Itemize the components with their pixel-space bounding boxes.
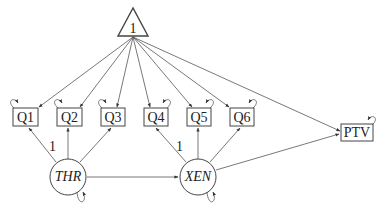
svg-text:THR: THR bbox=[55, 169, 82, 184]
svg-text:Q2: Q2 bbox=[61, 110, 78, 125]
svg-text:PTV: PTV bbox=[344, 125, 370, 140]
observed-q3: Q3 bbox=[99, 100, 125, 126]
svg-text:Q6: Q6 bbox=[233, 110, 250, 125]
loading-paths bbox=[29, 128, 240, 162]
sem-diagram: 1 1 1 Q1 Q2 Q3 Q4 Q5 Q6 bbox=[0, 0, 385, 215]
observed-q1: Q1 bbox=[11, 100, 38, 126]
loading-label-q1: 1 bbox=[49, 139, 56, 154]
observed-q4: Q4 bbox=[144, 100, 170, 126]
loading-label-q4: 1 bbox=[176, 139, 183, 154]
observed-ptv: PTV bbox=[341, 117, 375, 141]
observed-q5: Q5 bbox=[187, 100, 213, 126]
svg-text:XEN: XEN bbox=[184, 169, 212, 184]
svg-text:Q1: Q1 bbox=[17, 110, 34, 125]
observed-q6: Q6 bbox=[230, 100, 256, 126]
constant-label: 1 bbox=[130, 21, 137, 36]
constant-node: 1 bbox=[118, 8, 148, 36]
svg-text:Q3: Q3 bbox=[104, 110, 121, 125]
observed-q2: Q2 bbox=[55, 100, 82, 126]
svg-text:Q4: Q4 bbox=[147, 110, 164, 125]
path-xen-ptv bbox=[216, 134, 339, 170]
latent-thr: THR bbox=[50, 159, 86, 202]
latent-xen: XEN bbox=[180, 159, 216, 202]
svg-text:Q5: Q5 bbox=[190, 110, 207, 125]
